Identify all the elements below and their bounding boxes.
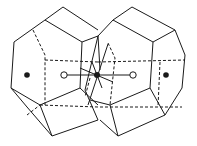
left-cell [11,7,98,136]
filled-atom-right [163,72,169,78]
filled-atom-center [94,72,100,78]
open-atom-right [130,72,136,78]
open-atom-left [61,72,67,78]
right-cell [85,7,185,136]
wigner-seitz-cells-diagram [0,0,197,146]
filled-atom-left [24,72,30,78]
